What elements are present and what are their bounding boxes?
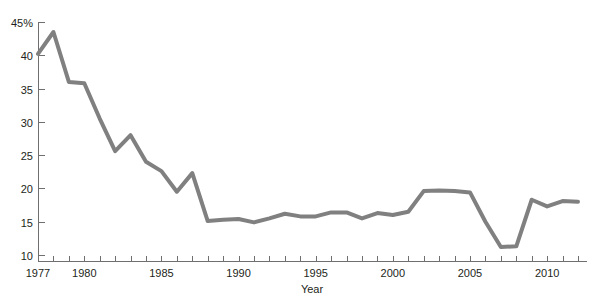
y-tick-label: 30	[21, 117, 33, 129]
x-tick-label: 1990	[226, 267, 250, 279]
y-tick-label: 15	[21, 217, 33, 229]
x-tick-marks	[39, 256, 579, 262]
y-tick-labels: 45%40353025201510	[11, 17, 33, 262]
line-chart: 45%40353025201510 1977198019851990199520…	[0, 0, 593, 305]
x-tick-label: 1977	[26, 267, 50, 279]
y-tick-label: 45%	[11, 17, 33, 29]
y-tick-label: 40	[21, 50, 33, 62]
data-series-group	[38, 32, 578, 247]
y-tick-label: 20	[21, 183, 33, 195]
x-tick-label: 1995	[303, 267, 327, 279]
chart-canvas: 45%40353025201510 1977198019851990199520…	[0, 0, 593, 305]
y-tick-label: 25	[21, 150, 33, 162]
x-tick-label: 2005	[458, 267, 482, 279]
x-tick-label: 1980	[72, 267, 96, 279]
x-axis: 19771980198519901995200020052010 Year	[26, 256, 587, 296]
x-axis-title: Year	[301, 283, 324, 295]
y-tick-marks	[39, 23, 45, 256]
y-tick-label: 10	[21, 250, 33, 262]
series-line	[38, 32, 578, 247]
x-tick-label: 2010	[535, 267, 559, 279]
y-tick-label: 35	[21, 84, 33, 96]
x-tick-labels: 19771980198519901995200020052010	[26, 267, 560, 279]
x-tick-label: 2000	[381, 267, 405, 279]
x-tick-label: 1985	[149, 267, 173, 279]
